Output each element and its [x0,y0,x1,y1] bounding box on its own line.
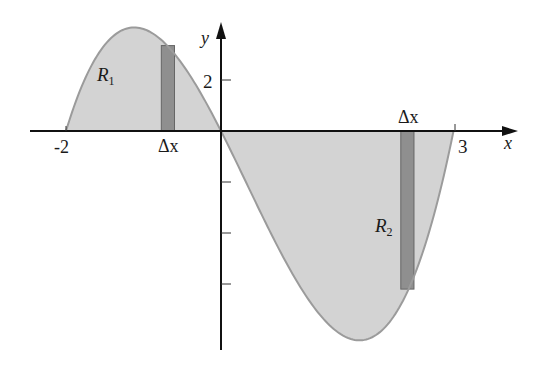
y-axis-ticks [221,80,231,284]
r2-letter: R [374,215,387,236]
y-axis-label: y [199,28,209,48]
r1-subscript: 1 [109,74,115,88]
delta-x-rectangle-2 [401,131,414,289]
delta-x-rectangle-1 [161,46,174,131]
area-between-curve-diagram: y x 2 -2 3 Δx Δx R1 R2 [0,0,549,379]
r1-letter: R [96,64,109,85]
x-axis-label: x [503,133,512,153]
x-tick-label-neg2: -2 [54,137,69,157]
y-axis-arrow-icon [216,22,226,39]
y-tick-label-2: 2 [203,71,213,92]
delta-x-label-right: Δx [398,107,419,127]
delta-x-label-left: Δx [158,136,179,156]
x-tick-label-3: 3 [458,136,468,157]
region-fill [66,27,454,340]
delta-x-label-right-text: Δx [398,107,419,127]
r2-subscript: 2 [387,225,393,239]
delta-x-label-left-text: Δx [158,136,179,156]
